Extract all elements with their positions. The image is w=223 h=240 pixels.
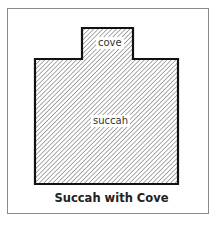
succah-label: succah: [91, 115, 130, 127]
succah-outline: [35, 28, 178, 184]
figure-caption: Succah with Cove: [0, 191, 223, 205]
cove-label: cove: [96, 37, 124, 49]
